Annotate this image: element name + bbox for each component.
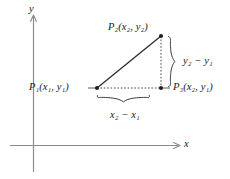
- distance-formula-figure: P₂(x₂, y₂) P₁(x₁, y₁) P₃(x₂, y₁) y₂ − y₁…: [0, 0, 230, 179]
- point-label-p1: P₁(x₁, y₁): [29, 82, 69, 93]
- hypotenuse: [97, 36, 161, 88]
- x-axis-label: x: [184, 139, 189, 150]
- point-label-p2: P₂(x₂, y₂): [108, 22, 148, 33]
- vertical-measure-brace: [169, 37, 175, 87]
- point-p2-marker: [159, 34, 163, 38]
- vertical-measure-label: y₂ − y₁: [183, 56, 213, 67]
- point-label-p3: P₃(x₂, y₁): [173, 82, 213, 93]
- x-axis: [10, 143, 180, 149]
- y-axis-label: y: [29, 4, 34, 15]
- point-p3-marker: [159, 86, 163, 90]
- y-axis: [31, 15, 37, 172]
- point-p1-marker: [95, 86, 99, 90]
- horizontal-measure-brace: [97, 96, 149, 102]
- horizontal-measure-label: x₂ − x₁: [110, 110, 140, 121]
